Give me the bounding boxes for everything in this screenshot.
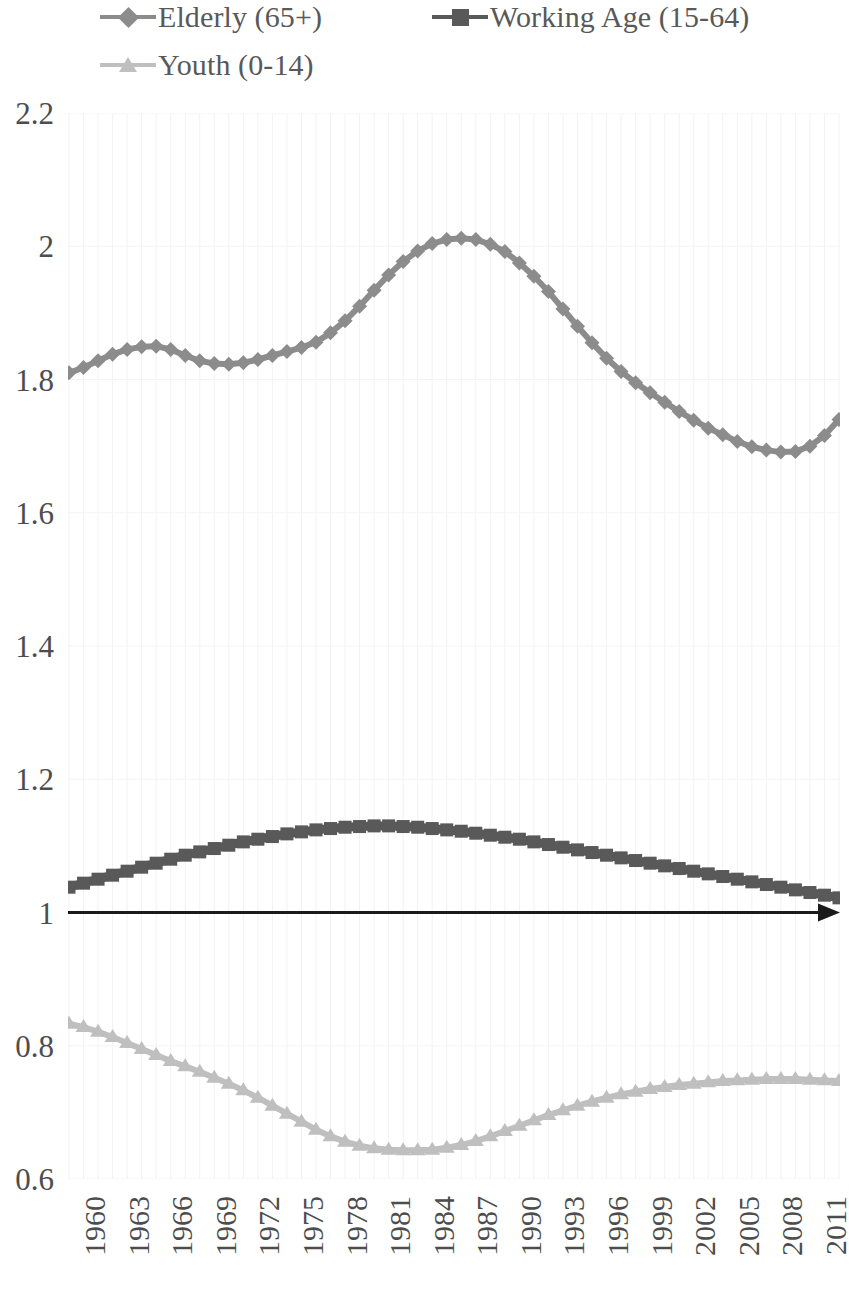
x-tick-label: 1999 xyxy=(647,1196,677,1256)
x-tick-label: 1978 xyxy=(342,1196,372,1256)
y-axis: 2.221.81.61.41.210.80.6 xyxy=(0,96,62,1196)
y-tick-label: 2.2 xyxy=(15,98,54,129)
legend-item-working-age[interactable]: Working Age (15-64) xyxy=(432,2,749,32)
series-canvas xyxy=(68,113,840,1179)
legend-marker-youth xyxy=(119,57,137,72)
y-tick-label: 1.6 xyxy=(15,497,54,528)
x-tick-label: 1996 xyxy=(603,1196,633,1256)
triangle-icon xyxy=(100,52,156,78)
x-axis: 1960196319661969197219751978198119841987… xyxy=(68,1196,840,1311)
y-tick-label: 1.2 xyxy=(15,764,54,795)
y-tick-label: 2 xyxy=(39,231,55,262)
legend-marker-elderly xyxy=(117,6,138,27)
x-tick-label: 2011 xyxy=(821,1196,849,1255)
x-tick-label: 1963 xyxy=(124,1196,154,1256)
x-tick-label: 1975 xyxy=(298,1196,328,1256)
legend-marker-working-age xyxy=(452,9,469,26)
legend-item-youth[interactable]: Youth (0-14) xyxy=(100,50,314,80)
y-tick-label: 1 xyxy=(39,897,55,928)
x-tick-label: 2005 xyxy=(734,1196,764,1256)
series-3 xyxy=(68,1016,840,1156)
x-tick-label: 2002 xyxy=(690,1196,720,1256)
legend-item-elderly[interactable]: Elderly (65+) xyxy=(100,2,322,32)
diamond-icon xyxy=(100,4,156,30)
square-icon xyxy=(432,4,488,30)
horizontal-gridlines xyxy=(68,113,840,1179)
x-tick-label: 1984 xyxy=(429,1196,459,1256)
plot-container: 2.221.81.61.41.210.80.6 xyxy=(0,96,849,1196)
series-2 xyxy=(68,819,840,904)
y-tick-label: 0.6 xyxy=(15,1164,54,1195)
y-tick-label: 1.8 xyxy=(15,364,54,395)
x-tick-label: 1990 xyxy=(516,1196,546,1256)
x-tick-label: 2008 xyxy=(777,1196,807,1256)
reference-line xyxy=(68,904,840,922)
chart-legend: Elderly (65+) Working Age (15-64) Youth … xyxy=(0,0,849,96)
x-tick-label: 1969 xyxy=(211,1196,241,1256)
series-1 xyxy=(68,231,840,460)
population-ratio-chart: Elderly (65+) Working Age (15-64) Youth … xyxy=(0,0,849,1311)
x-tick-label: 1966 xyxy=(167,1196,197,1256)
legend-label-elderly: Elderly (65+) xyxy=(156,2,322,32)
legend-label-working-age: Working Age (15-64) xyxy=(488,2,749,32)
x-tick-label: 1960 xyxy=(80,1196,110,1256)
x-tick-label: 1993 xyxy=(559,1196,589,1256)
plot-area xyxy=(68,113,840,1179)
y-tick-label: 0.8 xyxy=(15,1030,54,1061)
x-tick-label: 1987 xyxy=(472,1196,502,1256)
x-tick-label: 1972 xyxy=(254,1196,284,1256)
legend-label-youth: Youth (0-14) xyxy=(156,50,314,80)
x-tick-label: 1981 xyxy=(385,1196,415,1256)
y-tick-label: 1.4 xyxy=(15,631,54,662)
